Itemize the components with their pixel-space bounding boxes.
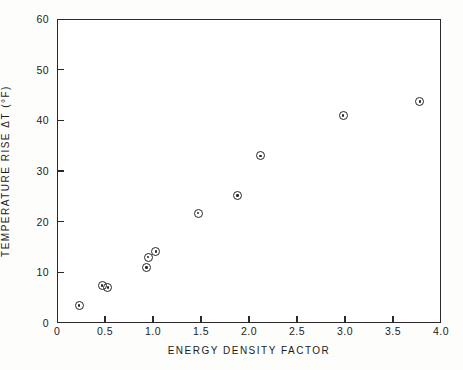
plot-data-area bbox=[57, 19, 441, 323]
x-tick-label: 3.0 bbox=[337, 325, 353, 337]
x-tick-label: 1.5 bbox=[193, 325, 209, 337]
y-tick-label: 0 bbox=[43, 317, 49, 329]
x-axis-title: ENERGY DENSITY FACTOR bbox=[57, 345, 441, 356]
x-tick-mark bbox=[248, 316, 249, 323]
x-tick-label: 0 bbox=[54, 325, 60, 337]
data-point bbox=[194, 209, 203, 218]
x-tick-label: 4.0 bbox=[433, 325, 449, 337]
y-tick-mark bbox=[57, 69, 64, 70]
x-tick-mark bbox=[152, 316, 153, 323]
y-tick-label: 40 bbox=[37, 114, 49, 126]
data-point bbox=[233, 191, 242, 200]
data-point bbox=[142, 263, 151, 272]
x-tick-mark bbox=[344, 316, 345, 323]
scatter-plot-figure: ENERGY DENSITY FACTOR TEMPERATURE RISE Δ… bbox=[0, 0, 463, 370]
x-tick-label: 1.0 bbox=[145, 325, 161, 337]
y-axis-title: TEMPERATURE RISE ΔT (°F) bbox=[0, 41, 11, 301]
data-point bbox=[75, 301, 84, 310]
y-tick-mark bbox=[57, 120, 64, 121]
x-tick-mark bbox=[104, 316, 105, 323]
x-tick-label: 3.5 bbox=[385, 325, 401, 337]
data-point bbox=[103, 283, 112, 292]
data-point bbox=[339, 111, 348, 120]
y-tick-label: 30 bbox=[37, 165, 49, 177]
x-tick-label: 2.0 bbox=[241, 325, 257, 337]
y-tick-label: 20 bbox=[37, 216, 49, 228]
data-point bbox=[415, 97, 424, 106]
x-tick-label: 2.5 bbox=[289, 325, 305, 337]
data-point bbox=[151, 247, 160, 256]
y-tick-mark bbox=[57, 272, 64, 273]
y-tick-mark bbox=[57, 170, 64, 171]
x-tick-label: 0.5 bbox=[97, 325, 113, 337]
y-tick-label: 60 bbox=[37, 13, 49, 25]
x-tick-mark bbox=[296, 316, 297, 323]
x-tick-mark bbox=[392, 316, 393, 323]
y-tick-label: 50 bbox=[37, 64, 49, 76]
x-tick-mark bbox=[200, 316, 201, 323]
data-point bbox=[256, 151, 265, 160]
y-tick-mark bbox=[57, 221, 64, 222]
y-tick-label: 10 bbox=[37, 266, 49, 278]
